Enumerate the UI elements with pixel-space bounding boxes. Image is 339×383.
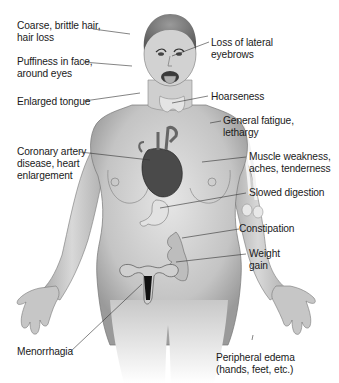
label-hair-line1: Coarse, brittle hair, — [17, 20, 100, 32]
label-edema-line1: Peripheral edema — [216, 352, 295, 364]
label-heart: Coronary artery disease, heart enlargeme… — [17, 146, 86, 182]
label-tongue-line1: Enlarged tongue — [17, 96, 90, 108]
label-fatigue: General fatigue, lethargy — [223, 115, 294, 139]
label-constipation: Constipation — [239, 223, 294, 235]
label-hair-line2: hair loss — [17, 32, 100, 44]
label-heart-line3: enlargement — [17, 170, 86, 182]
label-face-line1: Puffiness in face, — [17, 56, 93, 68]
label-tongue: Enlarged tongue — [17, 96, 90, 108]
label-edema: Peripheral edema (hands, feet, etc.) — [216, 352, 295, 376]
label-weight-line1: Weight — [249, 248, 280, 260]
label-hoarseness: Hoarseness — [211, 91, 264, 103]
label-constipation-line1: Constipation — [239, 223, 294, 235]
label-weight-line2: gain — [249, 260, 280, 272]
label-digestion: Slowed digestion — [249, 187, 324, 199]
label-edema-line2: (hands, feet, etc.) — [216, 364, 295, 376]
label-eyebrows-line2: eyebrows — [211, 49, 273, 61]
label-fatigue-line2: lethargy — [223, 127, 294, 139]
label-face: Puffiness in face, around eyes — [17, 56, 93, 80]
label-heart-line1: Coronary artery — [17, 146, 86, 158]
label-fatigue-line1: General fatigue, — [223, 115, 294, 127]
label-face-line2: around eyes — [17, 68, 93, 80]
label-eyebrows: Loss of lateral eyebrows — [211, 37, 273, 61]
label-muscle: Muscle weakness, aches, tenderness — [249, 151, 331, 175]
label-eyebrows-line1: Loss of lateral — [211, 37, 273, 49]
label-weight: Weight gain — [249, 248, 280, 272]
hypothyroidism-symptoms-figure: Coarse, brittle hair, hair loss Puffines… — [0, 0, 339, 383]
label-muscle-line1: Muscle weakness, — [249, 151, 331, 163]
label-hoarseness-line1: Hoarseness — [211, 91, 264, 103]
label-menorrhagia-line1: Menorrhagia — [17, 346, 73, 358]
label-menorrhagia: Menorrhagia — [17, 346, 73, 358]
label-muscle-line2: aches, tenderness — [249, 163, 331, 175]
label-heart-line2: disease, heart — [17, 158, 86, 170]
label-hair: Coarse, brittle hair, hair loss — [17, 20, 100, 44]
label-digestion-line1: Slowed digestion — [249, 187, 324, 199]
